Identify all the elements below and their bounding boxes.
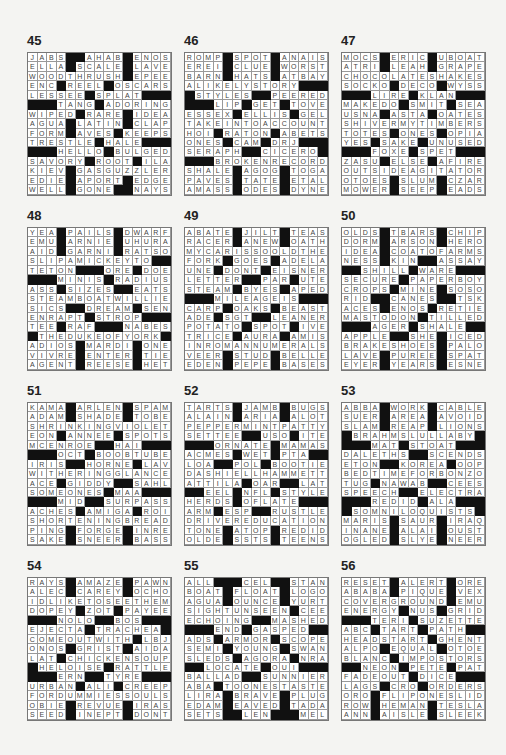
letter-cell: B [361,403,371,412]
black-square [152,138,162,147]
letter-cell: E [242,360,252,369]
letter-cell: A [214,147,224,156]
letter-cell: G [252,166,262,175]
letter-cell: E [380,497,390,506]
letter-cell: E [318,351,328,360]
letter-cell: T [123,157,133,166]
letter-cell: P [28,526,38,535]
letter-cell: W [418,266,428,275]
letter-cell: Z [85,285,95,294]
letter-cell: P [280,422,290,431]
letter-cell: E [261,237,271,246]
letter-cell: A [185,81,195,90]
black-square [85,497,95,506]
letter-cell: T [28,266,38,275]
black-square [152,672,162,681]
letter-cell: E [152,166,162,175]
letter-cell: M [271,341,281,350]
letter-cell: U [299,119,309,128]
letter-cell: Z [456,176,466,185]
letter-cell: L [123,469,133,478]
letter-cell: L [195,535,205,544]
letter-cell: C [28,635,38,644]
letter-cell: A [161,157,171,166]
letter-cell: R [418,360,428,369]
letter-cell: S [223,185,233,194]
letter-cell: E [309,672,319,681]
letter-cell: E [233,469,243,478]
black-square [437,285,447,294]
letter-cell: C [204,247,214,256]
letter-cell: C [447,479,457,488]
letter-cell: T [161,360,171,369]
letter-cell: E [371,176,381,185]
letter-cell: O [447,129,457,138]
letter-cell: B [123,516,133,525]
letter-cell: D [299,625,309,634]
letter-cell: R [142,507,152,516]
puzzle-49: 49ABATEJILTTEASRACERANEWOATHMYCARISSOOLD… [184,208,329,371]
letter-cell: R [57,351,67,360]
letter-cell: H [261,469,271,478]
letter-cell: I [204,81,214,90]
letter-cell: S [161,535,171,544]
letter-cell: B [95,450,105,459]
black-square [390,526,400,535]
black-square [66,119,76,128]
letter-cell: L [76,138,86,147]
letter-cell: E [352,469,362,478]
letter-cell: E [223,507,233,516]
black-square [152,441,162,450]
letter-cell: E [95,710,105,719]
black-square [342,91,352,100]
letter-cell: D [233,625,243,634]
black-square [38,616,48,625]
letter-cell: R [399,412,409,421]
black-square [447,460,457,469]
letter-cell: U [428,138,438,147]
letter-cell: L [399,157,409,166]
letter-cell: K [104,654,114,663]
black-square [161,313,171,322]
letter-cell: O [380,147,390,156]
letter-cell: I [390,507,400,516]
letter-cell: O [409,682,419,691]
letter-cell: A [57,294,67,303]
letter-cell: S [47,91,57,100]
letter-cell: E [161,663,171,672]
black-square [390,176,400,185]
black-square [233,412,243,421]
black-square [428,53,438,62]
letter-cell: L [342,682,352,691]
letter-cell: R [133,516,143,525]
black-square [233,403,243,412]
letter-cell: W [361,185,371,194]
letter-cell: L [133,147,143,156]
letter-cell: T [280,322,290,331]
letter-cell: V [361,597,371,606]
letter-cell: A [185,597,195,606]
black-square [437,606,447,615]
letter-cell: D [66,332,76,341]
letter-cell: E [104,403,114,412]
letter-cell: C [57,587,67,596]
letter-cell: T [114,644,124,653]
letter-cell: E [38,266,48,275]
letter-cell: E [95,663,105,672]
letter-cell: Z [437,616,447,625]
letter-cell: S [271,431,281,440]
black-square [123,578,133,587]
letter-cell: A [161,644,171,653]
letter-cell: N [95,469,105,478]
letter-cell: G [271,166,281,175]
black-square [380,228,390,237]
letter-cell: A [271,275,281,284]
letter-cell: M [204,450,214,459]
letter-cell: A [114,304,124,313]
letter-cell: B [123,450,133,459]
letter-cell: P [47,110,57,119]
letter-cell: A [361,341,371,350]
letter-cell: E [214,176,224,185]
letter-cell: S [371,53,381,62]
black-square [223,587,233,596]
